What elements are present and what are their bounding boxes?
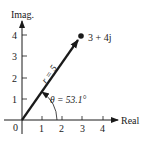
x-tick-label-3: 3 (80, 123, 85, 134)
y-tick-label-1: 1 (12, 94, 17, 105)
angle-label: θ = 53.1° (50, 95, 86, 105)
x-tick-label-4: 4 (100, 123, 105, 134)
x-tick-label-2: 2 (59, 123, 64, 134)
point-marker (78, 33, 84, 39)
y-tick-label-3: 3 (12, 51, 17, 62)
y-tick-label-2: 2 (12, 73, 17, 84)
y-tick-label-4: 4 (12, 30, 17, 41)
origin-label: 0 (13, 122, 18, 133)
imag-axis-label: Imag. (11, 9, 34, 20)
y-ticks (22, 35, 27, 99)
point-label: 3 + 4j (88, 32, 111, 43)
x-ticks (42, 116, 103, 120)
complex-plane-diagram: 0 1 2 3 4 1 2 3 4 Imag. Real θ = 53.1° 3… (0, 0, 144, 146)
x-tick-label-1: 1 (39, 123, 44, 134)
magnitude-label: r = 5 (39, 63, 59, 85)
real-axis-label: Real (121, 115, 140, 126)
